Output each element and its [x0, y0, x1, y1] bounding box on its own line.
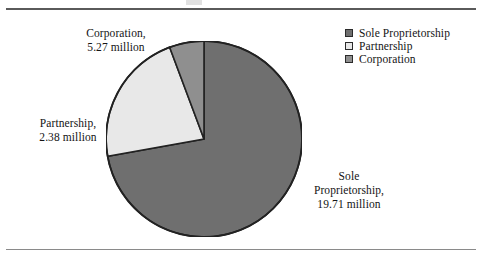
callout-corporation: Corporation, 5.27 million [58, 26, 174, 54]
legend-item-sole-proprietorship: Sole Proprietorship [345, 27, 450, 39]
legend-label: Corporation [359, 53, 416, 65]
legend: Sole Proprietorship Partnership Corporat… [345, 27, 450, 66]
figure-container: Corporation, 5.27 million Partnership, 2… [0, 0, 482, 265]
bottom-rule [6, 249, 476, 250]
legend-label: Partnership [359, 40, 412, 52]
scan-artifact [186, 0, 202, 5]
pie-chart [106, 41, 302, 237]
legend-swatch-icon [345, 55, 353, 63]
legend-item-partnership: Partnership [345, 40, 450, 52]
callout-partnership: Partnership, 2.38 million [22, 116, 114, 144]
top-rule [6, 8, 476, 10]
legend-item-corporation: Corporation [345, 53, 450, 65]
legend-swatch-icon [345, 42, 353, 50]
pie-chart-svg [106, 41, 302, 237]
legend-swatch-icon [345, 29, 353, 37]
callout-sole-proprietorship: Sole Proprietorship, 19.71 million [288, 169, 410, 211]
legend-label: Sole Proprietorship [359, 27, 450, 39]
